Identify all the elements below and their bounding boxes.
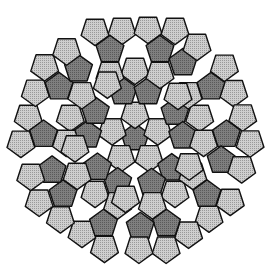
penrose-pentagon-tiling: [0, 0, 271, 274]
